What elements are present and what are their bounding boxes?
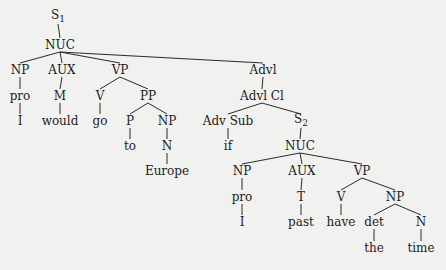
node-label: M bbox=[54, 89, 66, 103]
node-subscript: 1 bbox=[59, 14, 65, 24]
tree-node-np4: NP bbox=[386, 190, 405, 204]
node-label: PP bbox=[140, 89, 156, 103]
tree-node-have: have bbox=[327, 215, 356, 229]
tree-node-det: det bbox=[364, 215, 384, 229]
tree-node-past: past bbox=[288, 215, 314, 229]
tree-node-advlcl: Advl Cl bbox=[240, 89, 284, 103]
tree-node-t: T bbox=[297, 190, 305, 204]
node-label: VP bbox=[112, 63, 129, 77]
node-subscript: 2 bbox=[302, 118, 308, 128]
node-label: NP bbox=[386, 190, 405, 204]
node-label: Advl bbox=[250, 63, 277, 77]
tree-edge bbox=[60, 52, 62, 63]
node-label: go bbox=[93, 114, 108, 128]
tree-node-np2: NP bbox=[158, 114, 177, 128]
tree-node-if: if bbox=[224, 139, 232, 153]
tree-node-np1: NP bbox=[11, 63, 30, 77]
tree-node-nuc1: NUC bbox=[45, 38, 75, 52]
tree-edge bbox=[228, 103, 262, 114]
tree-node-aux2: AUX bbox=[288, 164, 315, 178]
node-label: to bbox=[124, 139, 136, 153]
tree-node-pp1: PP bbox=[140, 89, 156, 103]
tree-edge bbox=[341, 178, 362, 190]
node-label: N bbox=[162, 139, 173, 153]
node-label: N bbox=[416, 215, 427, 229]
tree-node-pro1: pro bbox=[10, 89, 31, 103]
node-label: Adv Sub bbox=[203, 114, 254, 128]
tree-edge bbox=[262, 77, 263, 89]
tree-node-the: the bbox=[364, 241, 384, 255]
node-label: V bbox=[337, 190, 346, 204]
tree-node-would: would bbox=[42, 114, 79, 128]
node-label: AUX bbox=[48, 63, 75, 77]
tree-node-s1: S1 bbox=[51, 8, 65, 26]
tree-edge bbox=[374, 204, 395, 215]
node-label: Europe bbox=[145, 164, 189, 178]
node-label: time bbox=[407, 241, 434, 255]
node-label: pro bbox=[10, 89, 31, 103]
node-label: if bbox=[224, 139, 232, 153]
tree-edge bbox=[120, 77, 148, 89]
node-label: S bbox=[294, 112, 302, 126]
tree-node-np3: NP bbox=[233, 164, 252, 178]
tree-node-n1: N bbox=[162, 139, 173, 153]
tree-edge bbox=[242, 153, 300, 164]
tree-edge bbox=[58, 24, 60, 38]
tree-node-advl: Advl bbox=[250, 63, 277, 77]
tree-edge bbox=[300, 153, 302, 164]
tree-node-v2: V bbox=[337, 190, 346, 204]
node-label: the bbox=[364, 241, 384, 255]
tree-node-i1: I bbox=[18, 114, 23, 128]
tree-edge bbox=[300, 153, 362, 164]
tree-edge bbox=[100, 77, 120, 89]
tree-edge bbox=[20, 52, 60, 63]
node-label: past bbox=[288, 215, 314, 229]
tree-node-europe: Europe bbox=[145, 164, 189, 178]
node-label: NP bbox=[158, 114, 177, 128]
tree-edge bbox=[301, 178, 302, 190]
node-label: P bbox=[126, 114, 134, 128]
node-label: NUC bbox=[45, 38, 75, 52]
tree-edge bbox=[362, 178, 395, 190]
tree-node-to: to bbox=[124, 139, 136, 153]
tree-node-m1: M bbox=[54, 89, 66, 103]
node-label: T bbox=[297, 190, 305, 204]
tree-node-pro2: pro bbox=[232, 190, 253, 204]
node-label: I bbox=[18, 114, 23, 128]
node-label: V bbox=[96, 89, 105, 103]
node-label: VP bbox=[354, 164, 371, 178]
tree-edge bbox=[395, 204, 421, 215]
tree-node-vp2: VP bbox=[354, 164, 371, 178]
tree-node-time: time bbox=[407, 241, 434, 255]
node-label: NP bbox=[11, 63, 30, 77]
tree-edge bbox=[60, 77, 62, 89]
tree-node-go: go bbox=[93, 114, 108, 128]
node-label: AUX bbox=[288, 164, 315, 178]
tree-node-n2: N bbox=[416, 215, 427, 229]
node-label: pro bbox=[232, 190, 253, 204]
tree-node-nuc2: NUC bbox=[285, 139, 315, 153]
node-label: det bbox=[364, 215, 384, 229]
node-label: Advl Cl bbox=[240, 89, 284, 103]
tree-node-aux1: AUX bbox=[48, 63, 75, 77]
node-label: NP bbox=[233, 164, 252, 178]
tree-node-s2: S2 bbox=[294, 112, 308, 130]
tree-node-vp1: VP bbox=[112, 63, 129, 77]
tree-edge bbox=[148, 103, 167, 114]
tree-node-v1: V bbox=[96, 89, 105, 103]
node-label: would bbox=[42, 114, 79, 128]
tree-edge bbox=[130, 103, 148, 114]
node-label: I bbox=[240, 215, 245, 229]
tree-node-i2: I bbox=[240, 215, 245, 229]
node-label: S bbox=[51, 8, 59, 22]
tree-node-p1: P bbox=[126, 114, 134, 128]
node-label: have bbox=[327, 215, 356, 229]
node-label: NUC bbox=[285, 139, 315, 153]
tree-node-advsub: Adv Sub bbox=[203, 114, 254, 128]
